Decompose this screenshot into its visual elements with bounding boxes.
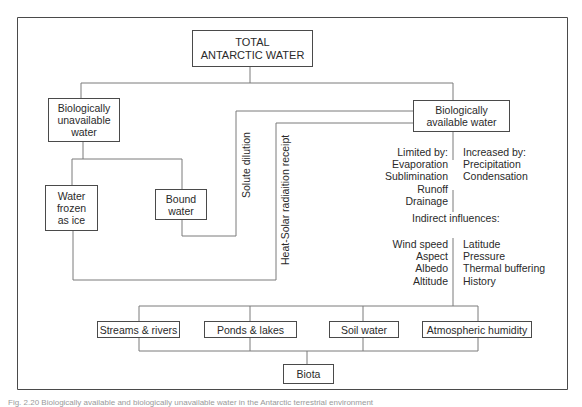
limited-item: Drainage bbox=[380, 195, 448, 207]
ponds-lakes-box: Ponds & lakes bbox=[204, 321, 297, 338]
increased-item: Precipitation bbox=[463, 158, 528, 170]
indirect-item: Wind speed bbox=[380, 238, 448, 250]
biota-box: Biota bbox=[283, 364, 334, 384]
heat-solar-radiation-label: Heat-Solar radiaition receipt bbox=[279, 135, 291, 265]
limited-item: Runoff bbox=[380, 183, 448, 195]
limited-by-heading: Limited by: bbox=[380, 146, 448, 158]
indirect-item: Aspect bbox=[380, 250, 448, 262]
streams-rivers-box: Streams & rivers bbox=[97, 321, 180, 338]
solute-dilution-label: Solute dilution bbox=[240, 132, 252, 198]
water-frozen-as-ice-box: Water frozen as ice bbox=[45, 185, 98, 231]
bound-water-box: Bound water bbox=[155, 189, 207, 220]
indirect-item: Pressure bbox=[463, 250, 545, 262]
biologically-unavailable-water-box: Biologically unavailable water bbox=[48, 98, 120, 142]
indirect-item: Latitude bbox=[463, 238, 545, 250]
indirect-right-list: Latitude Pressure Thermal buffering Hist… bbox=[463, 238, 545, 287]
total-antarctic-water-box: TOTAL ANTARCTIC WATER bbox=[192, 30, 313, 67]
limited-item: Evaporation bbox=[380, 158, 448, 170]
indirect-item: Thermal buffering bbox=[463, 262, 545, 274]
soil-water-box: Soil water bbox=[329, 321, 399, 338]
increased-item: Condensation bbox=[463, 170, 528, 182]
indirect-item: History bbox=[463, 275, 545, 287]
indirect-item: Albedo bbox=[380, 262, 448, 274]
biologically-available-water-box: Biologically available water bbox=[413, 100, 510, 132]
indirect-influences-heading: Indirect influences: bbox=[411, 212, 501, 224]
indirect-left-list: Wind speed Aspect Albedo Altitude bbox=[380, 238, 448, 287]
increased-by-heading: Increased by: bbox=[463, 146, 528, 158]
figure-caption: Fig. 2.20 Biologically available and bio… bbox=[8, 398, 574, 407]
increased-by-list: Increased by: Precipitation Condensation bbox=[463, 146, 528, 183]
atmospheric-humidity-box: Atmospheric humidity bbox=[422, 321, 532, 338]
limited-by-list: Limited by: Evaporation Sublimination Ru… bbox=[380, 146, 448, 207]
indirect-item: Altitude bbox=[380, 275, 448, 287]
limited-item: Sublimination bbox=[380, 170, 448, 182]
